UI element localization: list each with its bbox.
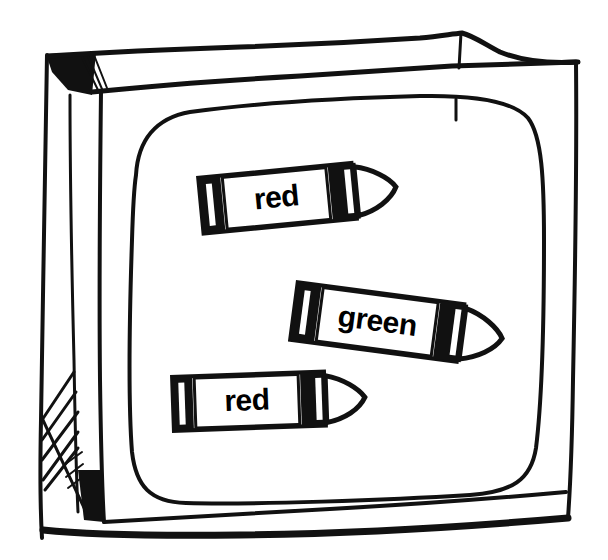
bag-top-crease: [459, 33, 461, 68]
illustration-root: Paper bag with crayons Black and white l…: [0, 0, 608, 560]
crayon-label-text: red: [252, 178, 300, 215]
crayon-label-text: red: [224, 382, 270, 417]
crayon-bag-illustration: Paper bag with crayons Black and white l…: [0, 0, 608, 560]
bag-top-back-edge: [48, 33, 578, 63]
crayon-red-bottom[interactable]: red: [172, 370, 366, 431]
